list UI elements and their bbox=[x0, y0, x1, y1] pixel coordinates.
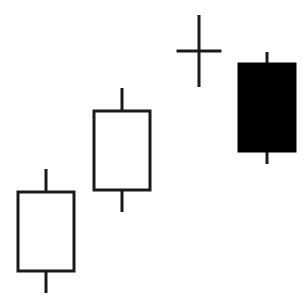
candle-1 bbox=[18, 169, 74, 293]
candle-3 bbox=[177, 15, 222, 87]
chart-canvas bbox=[0, 0, 308, 308]
bullish-candle-body bbox=[94, 111, 150, 190]
candlestick-chart bbox=[0, 0, 308, 308]
bullish-candle-body bbox=[18, 192, 74, 271]
candle-2 bbox=[94, 88, 150, 212]
candle-4 bbox=[239, 52, 295, 164]
bearish-candle-body bbox=[239, 64, 295, 151]
